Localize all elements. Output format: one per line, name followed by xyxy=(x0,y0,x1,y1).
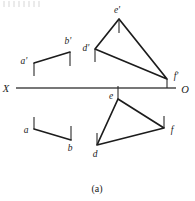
vertex-label-a-top: a xyxy=(24,125,29,135)
triangle-def-front-outline xyxy=(95,19,167,79)
top-view-group: a b e f d xyxy=(24,86,175,159)
vertex-label-d-front: d' xyxy=(83,43,91,53)
vertex-label-b-front: b' xyxy=(65,36,73,46)
vertex-label-d-top: d xyxy=(93,149,98,159)
ground-line-group: X O xyxy=(2,83,189,95)
axis-label-o: O xyxy=(181,84,189,95)
vertex-label-f-top: f xyxy=(171,125,175,135)
front-view-group: a' b' d' e' f' xyxy=(21,5,180,88)
segment-ab-top-group: a b xyxy=(24,117,73,153)
triangle-def-top-outline xyxy=(97,99,164,145)
vertex-label-f-front: f' xyxy=(174,71,180,81)
triangle-def-front-group: d' e' f' xyxy=(83,5,180,88)
segment-ab-front-line xyxy=(34,52,70,63)
triangle-def-top-group: e f d xyxy=(93,86,175,159)
vertex-label-b-top: b xyxy=(68,143,73,153)
figure-caption: (a) xyxy=(91,183,102,195)
vertex-label-a-front: a' xyxy=(21,56,29,66)
vertex-label-e-front: e' xyxy=(114,5,121,15)
axis-label-x: X xyxy=(2,83,10,94)
segment-ab-top-line xyxy=(34,129,71,140)
figure-container: X O a' b' d' e' f' xyxy=(0,0,195,201)
segment-ab-front-group: a' b' xyxy=(21,36,73,76)
vertex-label-e-top: e xyxy=(109,91,113,101)
orthographic-projection-diagram: X O a' b' d' e' f' xyxy=(0,0,195,201)
